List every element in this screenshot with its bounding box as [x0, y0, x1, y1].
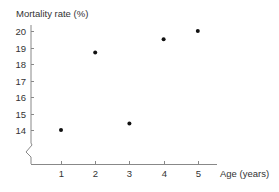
data-point [196, 29, 200, 33]
data-point [127, 121, 131, 125]
x-tick-label: 2 [89, 169, 103, 179]
y-tick-label: 20 [10, 27, 26, 37]
y-tick-label: 14 [10, 126, 26, 136]
x-tick-label: 4 [158, 169, 172, 179]
x-tick-label: 3 [123, 169, 137, 179]
y-axis-line [26, 25, 32, 164]
data-point [162, 37, 166, 41]
data-point [93, 50, 97, 54]
plot-area [0, 0, 279, 192]
y-tick-label: 18 [10, 60, 26, 70]
data-point [59, 128, 63, 132]
y-tick-label: 19 [10, 44, 26, 54]
y-tick-label: 15 [10, 110, 26, 120]
y-tick-label: 17 [10, 77, 26, 87]
scatter-chart: Mortality rate (%) Age (years) 141516171… [0, 0, 279, 192]
x-tick-label: 1 [55, 169, 69, 179]
x-tick-label: 5 [192, 169, 206, 179]
y-tick-label: 16 [10, 93, 26, 103]
